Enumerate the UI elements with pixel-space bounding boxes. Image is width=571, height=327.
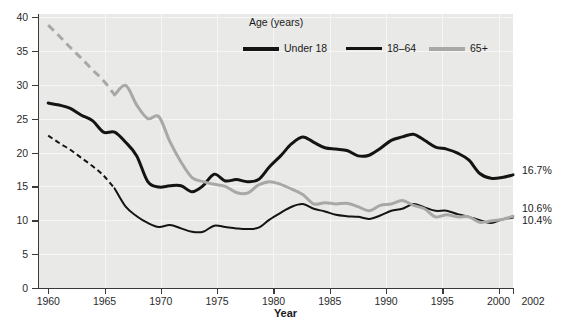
legend-swatch-18-64 bbox=[346, 47, 382, 50]
legend-label-65-plus: 65+ bbox=[470, 42, 488, 54]
legend-label-18-64: 18–64 bbox=[387, 42, 416, 54]
end-label-18-64: 10.4% bbox=[522, 214, 552, 226]
end-label-under-18: 16.7% bbox=[522, 164, 552, 176]
chart-figure: Youth in Crisis about poverty and childr… bbox=[0, 0, 571, 327]
series-line-dashed-1 bbox=[48, 136, 114, 189]
end-label-65-plus: 10.6% bbox=[522, 202, 552, 214]
series-line-1 bbox=[115, 188, 513, 232]
legend-label-under-18: Under 18 bbox=[284, 42, 327, 54]
chart-legend: Age (years) Under 18 18–64 65+ bbox=[243, 16, 493, 62]
legend-swatch-under-18 bbox=[243, 47, 279, 51]
series-line-0 bbox=[48, 103, 513, 192]
legend-title: Age (years) bbox=[249, 16, 303, 28]
legend-swatch-65-plus bbox=[429, 47, 465, 51]
series-line-2 bbox=[115, 85, 513, 222]
series-line-dashed-2 bbox=[48, 25, 114, 95]
